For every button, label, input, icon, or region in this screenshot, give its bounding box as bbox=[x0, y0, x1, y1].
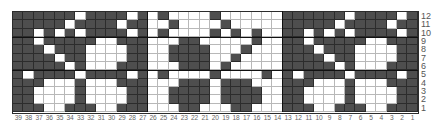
stitch-cell bbox=[407, 70, 417, 78]
stitch-cell bbox=[117, 95, 127, 103]
stitch-cell bbox=[335, 37, 345, 45]
stitch-cell bbox=[345, 29, 355, 37]
stitch-cell bbox=[366, 70, 376, 78]
stitch-cell bbox=[241, 54, 251, 62]
stitch-cell bbox=[127, 20, 137, 28]
stitch-cell bbox=[355, 79, 365, 87]
stitch-cell bbox=[148, 12, 158, 20]
stitch-cell bbox=[179, 12, 189, 20]
stitch-cell bbox=[65, 54, 75, 62]
stitch-cell bbox=[44, 104, 54, 112]
stitch-cell bbox=[158, 54, 168, 62]
stitch-cell bbox=[44, 37, 54, 45]
column-label: 12 bbox=[293, 114, 303, 121]
section-divider-27-26 bbox=[147, 11, 148, 112]
stitch-cell bbox=[34, 45, 44, 53]
stitch-cell bbox=[75, 104, 85, 112]
chart-row-4 bbox=[13, 79, 418, 87]
stitch-cell bbox=[314, 54, 324, 62]
stitch-cell bbox=[148, 37, 158, 45]
stitch-cell bbox=[314, 95, 324, 103]
stitch-cell bbox=[23, 95, 33, 103]
stitch-cell bbox=[200, 54, 210, 62]
stitch-cell bbox=[96, 54, 106, 62]
stitch-cell bbox=[179, 29, 189, 37]
stitch-cell bbox=[262, 79, 272, 87]
stitch-cell bbox=[86, 54, 96, 62]
stitch-cell bbox=[355, 45, 365, 53]
stitch-cell bbox=[387, 54, 397, 62]
stitch-cell bbox=[366, 54, 376, 62]
stitch-cell bbox=[397, 45, 407, 53]
column-label: 34 bbox=[65, 114, 75, 121]
stitch-cell bbox=[96, 79, 106, 87]
stitch-cell bbox=[324, 70, 334, 78]
column-label: 14 bbox=[272, 114, 282, 121]
stitch-cell bbox=[55, 70, 65, 78]
stitch-cell bbox=[96, 87, 106, 95]
stitch-cell bbox=[314, 45, 324, 53]
stitch-cell bbox=[34, 79, 44, 87]
stitch-cell bbox=[376, 12, 386, 20]
stitch-cell bbox=[210, 79, 220, 87]
stitch-cell bbox=[55, 12, 65, 20]
column-label: 31 bbox=[96, 114, 106, 121]
stitch-cell bbox=[127, 70, 137, 78]
chart-row-2 bbox=[13, 95, 418, 103]
stitch-cell bbox=[283, 95, 293, 103]
stitch-cell bbox=[65, 87, 75, 95]
stitch-cell bbox=[221, 37, 231, 45]
stitch-cell bbox=[75, 70, 85, 78]
stitch-cell bbox=[55, 79, 65, 87]
stitch-cell bbox=[189, 54, 199, 62]
stitch-cell bbox=[293, 95, 303, 103]
column-label: 21 bbox=[200, 114, 210, 121]
stitch-cell bbox=[75, 95, 85, 103]
stitch-cell bbox=[65, 95, 75, 103]
stitch-cell bbox=[96, 95, 106, 103]
stitch-cell bbox=[241, 29, 251, 37]
stitch-cell bbox=[117, 104, 127, 112]
stitch-cell bbox=[324, 45, 334, 53]
stitch-cell bbox=[158, 79, 168, 87]
stitch-cell bbox=[293, 12, 303, 20]
stitch-cell bbox=[335, 12, 345, 20]
stitch-cell bbox=[75, 37, 85, 45]
stitch-cell bbox=[345, 87, 355, 95]
stitch-cell bbox=[169, 79, 179, 87]
stitch-cell bbox=[231, 87, 241, 95]
column-label: 4 bbox=[376, 114, 386, 121]
stitch-cell bbox=[283, 70, 293, 78]
stitch-cell bbox=[397, 79, 407, 87]
stitch-cell bbox=[355, 95, 365, 103]
stitch-cell bbox=[210, 104, 220, 112]
stitch-cell bbox=[324, 29, 334, 37]
stitch-cell bbox=[241, 20, 251, 28]
stitch-cell bbox=[158, 29, 168, 37]
stitch-cell bbox=[23, 79, 33, 87]
stitch-cell bbox=[86, 20, 96, 28]
stitch-cell bbox=[179, 70, 189, 78]
stitch-cell bbox=[13, 12, 23, 20]
stitch-cell bbox=[293, 29, 303, 37]
stitch-cell bbox=[387, 79, 397, 87]
stitch-cell bbox=[75, 29, 85, 37]
stitch-cell bbox=[210, 12, 220, 20]
stitch-cell bbox=[106, 87, 116, 95]
stitch-cell bbox=[293, 79, 303, 87]
stitch-cell bbox=[148, 104, 158, 112]
column-label: 37 bbox=[34, 114, 44, 121]
stitch-cell bbox=[252, 54, 262, 62]
stitch-cell bbox=[407, 104, 417, 112]
stitch-cell bbox=[345, 70, 355, 78]
stitch-cell bbox=[397, 95, 407, 103]
stitch-cell bbox=[13, 20, 23, 28]
stitch-cell bbox=[65, 20, 75, 28]
stitch-cell bbox=[65, 79, 75, 87]
column-label: 5 bbox=[366, 114, 376, 121]
stitch-cell bbox=[169, 37, 179, 45]
stitch-cell bbox=[221, 54, 231, 62]
chart-row-7 bbox=[13, 54, 418, 62]
stitch-cell bbox=[324, 20, 334, 28]
stitch-cell bbox=[324, 37, 334, 45]
